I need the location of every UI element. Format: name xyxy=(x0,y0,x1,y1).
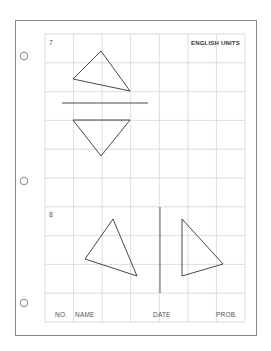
footer-no-label: NO. xyxy=(55,311,67,318)
problem-8-figure xyxy=(85,207,223,293)
problem-7-figure xyxy=(62,51,148,156)
problem-number-8: 8 xyxy=(49,211,53,218)
units-label: ENGLISH UNITS xyxy=(191,40,240,46)
footer-date-label: DATE xyxy=(153,311,171,318)
hole-punch-icon xyxy=(20,177,28,185)
problem-number-7: 7 xyxy=(49,39,53,46)
hole-punch-icon xyxy=(20,52,28,60)
footer-prob-label: PROB. xyxy=(216,311,237,318)
footer-name-label: NAME xyxy=(75,311,95,318)
hole-punches xyxy=(20,52,28,307)
triangle-left-view xyxy=(85,219,137,276)
triangle-top-view xyxy=(73,51,130,91)
worksheet-drawing xyxy=(0,0,271,351)
hole-punch-icon xyxy=(20,299,28,307)
triangle-front-view xyxy=(73,120,130,156)
